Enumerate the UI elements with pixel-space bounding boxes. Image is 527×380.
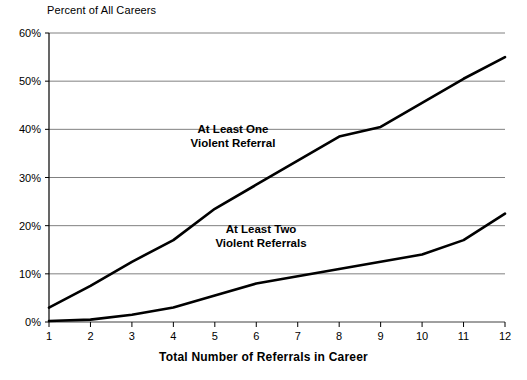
series-line-0 xyxy=(49,57,505,307)
x-tick-label-1: 1 xyxy=(34,331,64,342)
series-annotation-line: At Least One xyxy=(168,122,298,136)
x-tick-label-5: 5 xyxy=(200,331,230,342)
x-axis-title: Total Number of Referrals in Career xyxy=(0,350,527,364)
x-tick-label-3: 3 xyxy=(117,331,147,342)
x-tick-label-4: 4 xyxy=(158,331,188,342)
y-tick-label-0: 0% xyxy=(0,317,41,328)
chart-plot-area xyxy=(0,0,527,380)
x-tick-label-6: 6 xyxy=(241,331,271,342)
y-tick-label-40: 40% xyxy=(0,124,41,135)
y-tick-label-30: 30% xyxy=(0,173,41,184)
x-tick-label-2: 2 xyxy=(75,331,105,342)
x-tick-label-12: 12 xyxy=(490,331,520,342)
series-annotation-line: Violent Referrals xyxy=(196,236,326,250)
x-tick-label-10: 10 xyxy=(407,331,437,342)
y-tick-label-10: 10% xyxy=(0,269,41,280)
series-annotation-line: Violent Referral xyxy=(168,136,298,150)
series-annotation-at-least-one: At Least OneViolent Referral xyxy=(168,122,298,150)
series-annotation-line: At Least Two xyxy=(196,222,326,236)
x-tick-marks-group xyxy=(49,322,505,327)
series-annotation-at-least-two: At Least TwoViolent Referrals xyxy=(196,222,326,250)
y-tick-label-20: 20% xyxy=(0,221,41,232)
y-tick-label-60: 60% xyxy=(0,28,41,39)
x-tick-label-8: 8 xyxy=(324,331,354,342)
x-tick-label-7: 7 xyxy=(283,331,313,342)
y-tick-label-50: 50% xyxy=(0,76,41,87)
x-tick-label-11: 11 xyxy=(449,331,479,342)
chart-container: Percent of All Careers 0%10%20%30%40%50%… xyxy=(0,0,527,380)
x-tick-label-9: 9 xyxy=(366,331,396,342)
data-series-group xyxy=(49,57,505,321)
